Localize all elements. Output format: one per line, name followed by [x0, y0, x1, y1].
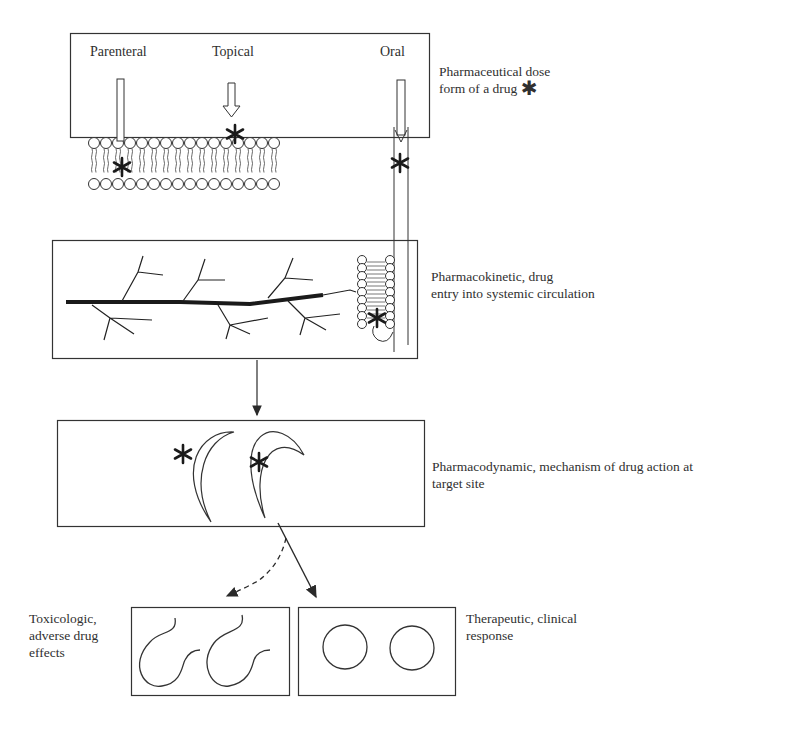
- oral-gi-tube: [392, 80, 408, 352]
- stage-label-pharmaceutical: Pharmaceutical dose form of a drug ✱: [439, 63, 550, 97]
- intestinal-membrane: [358, 256, 395, 342]
- blood-vessel-icon: [66, 256, 356, 340]
- stage-label-pharmacodynamic: Pharmacodynamic, mechanism of drug actio…: [432, 458, 693, 492]
- outcome-label-toxicologic: Toxicologic, adverse drug effects: [29, 610, 98, 661]
- pharmacodynamic-box: [58, 421, 425, 527]
- damaged-cell-icon: [140, 615, 270, 686]
- route-label-parenteral: Parenteral: [90, 43, 147, 61]
- drug-asterisk-icon: [175, 445, 191, 463]
- toxicologic-box: [132, 608, 290, 696]
- therapeutic-solid-arrow: [278, 523, 316, 597]
- healthy-cell-icon: [323, 625, 434, 670]
- topical-arrow-icon: [223, 83, 240, 117]
- therapeutic-box: [299, 608, 456, 696]
- route-label-oral: Oral: [380, 43, 405, 61]
- diagram-canvas: [0, 0, 793, 732]
- toxic-dashed-arrow: [227, 538, 286, 596]
- receptor-icon: [193, 432, 304, 522]
- parenteral-needle-icon: [117, 79, 124, 141]
- stage-label-pharmacokinetic: Pharmacokinetic, drug entry into systemi…: [431, 268, 595, 302]
- route-label-topical: Topical: [212, 43, 254, 61]
- outcome-label-therapeutic: Therapeutic, clinical response: [466, 610, 577, 644]
- drug-asterisk-icon: ✱: [521, 76, 538, 100]
